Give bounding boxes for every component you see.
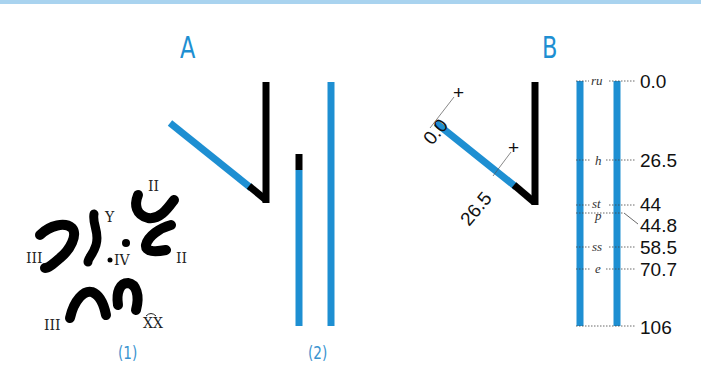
label-iii-bottom: III xyxy=(44,317,61,333)
chromosome-iii-left xyxy=(40,225,74,268)
pos-106: 106 xyxy=(640,317,672,338)
b-label-26-5: 26.5 xyxy=(456,188,496,230)
label-iii-left: III xyxy=(26,250,43,266)
pos-44-8: 44.8 xyxy=(640,215,677,236)
gene-e: e xyxy=(595,261,601,276)
pos-26-5: 26.5 xyxy=(640,150,677,171)
marker-leader-p xyxy=(624,213,638,224)
gene-p: p xyxy=(594,208,602,223)
pos-0-0: 0.0 xyxy=(640,71,666,92)
chromosome-diagram-a xyxy=(170,82,331,326)
chromosome-iv-dot-b xyxy=(108,258,113,263)
gene-ss: ss xyxy=(592,239,602,254)
label-y: Y xyxy=(104,209,115,225)
chromosome-ii-top xyxy=(136,195,174,218)
a-diagonal-blue-arm xyxy=(170,123,251,188)
label-xx: XX xyxy=(143,315,163,331)
label-ii-right: II xyxy=(176,250,187,266)
chromosome-y xyxy=(88,214,97,262)
chromosome-ii-right xyxy=(146,225,171,251)
figure-canvas: II II III III IV Y XX + + 0.0 26.5 xyxy=(0,0,701,391)
gene-h: h xyxy=(595,153,602,168)
b-diagonal-black-arm xyxy=(514,185,534,202)
pos-58-5: 58.5 xyxy=(640,237,677,258)
gene-ru: ru xyxy=(591,73,603,88)
pos-70-7: 70.7 xyxy=(640,259,677,280)
chromosome-xx xyxy=(117,283,137,310)
label-ii-top: II xyxy=(148,178,159,194)
chromosome-diagram-b: + + 0.0 26.5 xyxy=(419,82,535,230)
chromosome-iii-bottom xyxy=(70,292,106,318)
b-plus-mid: + xyxy=(508,137,519,158)
chromosome-iv-dot-a xyxy=(122,239,130,247)
genetic-map: ru h st p ss e 0.0 26.5 44 44.8 58.5 70.… xyxy=(576,71,677,338)
b-label-0-0: 0.0 xyxy=(419,115,452,149)
label-iv: IV xyxy=(114,252,131,268)
b-plus-top: + xyxy=(453,82,464,103)
pos-44: 44 xyxy=(640,194,662,215)
